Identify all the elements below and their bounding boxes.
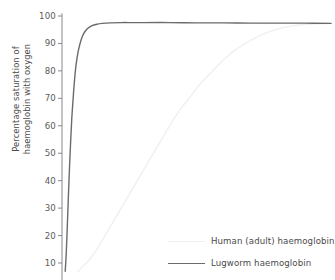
legend-label-human: Human (adult) haemoglobin bbox=[211, 236, 335, 246]
legend-swatch-human bbox=[168, 241, 205, 242]
series-line-lugworm bbox=[65, 23, 331, 272]
y-axis bbox=[58, 13, 62, 280]
legend-item-lugworm[interactable]: Lugworm haemoglobin bbox=[168, 258, 311, 268]
series-lines bbox=[65, 23, 331, 272]
legend-item-human[interactable]: Human (adult) haemoglobin bbox=[168, 236, 335, 246]
legend-swatch-lugworm bbox=[168, 263, 205, 264]
series-line-human bbox=[78, 23, 331, 271]
legend-label-lugworm: Lugworm haemoglobin bbox=[211, 258, 311, 268]
